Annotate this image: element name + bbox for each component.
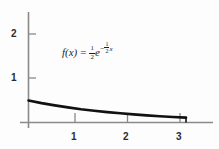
exponential-density-figure: 2 1 1 2 3 f(x)=12e−12x (0, 0, 219, 149)
y-axis-tick-label-1: 1 (11, 73, 17, 83)
formula-annotation: f(x)=12e−12x (62, 41, 113, 61)
formula-exponent-variable: x (109, 45, 112, 53)
x-axis-tick-label-2: 2 (123, 132, 129, 142)
x-axis-tick-label-3: 3 (176, 132, 182, 142)
density-curve (29, 101, 187, 118)
x-axis-tick-label-1: 1 (71, 132, 77, 142)
formula-function-name: f(x) (62, 46, 77, 58)
formula-equals-sign: = (80, 46, 86, 58)
formula-exponent: −12x (100, 41, 113, 55)
y-axis-tick-label-2: 2 (11, 29, 17, 39)
plot-canvas (0, 0, 219, 149)
